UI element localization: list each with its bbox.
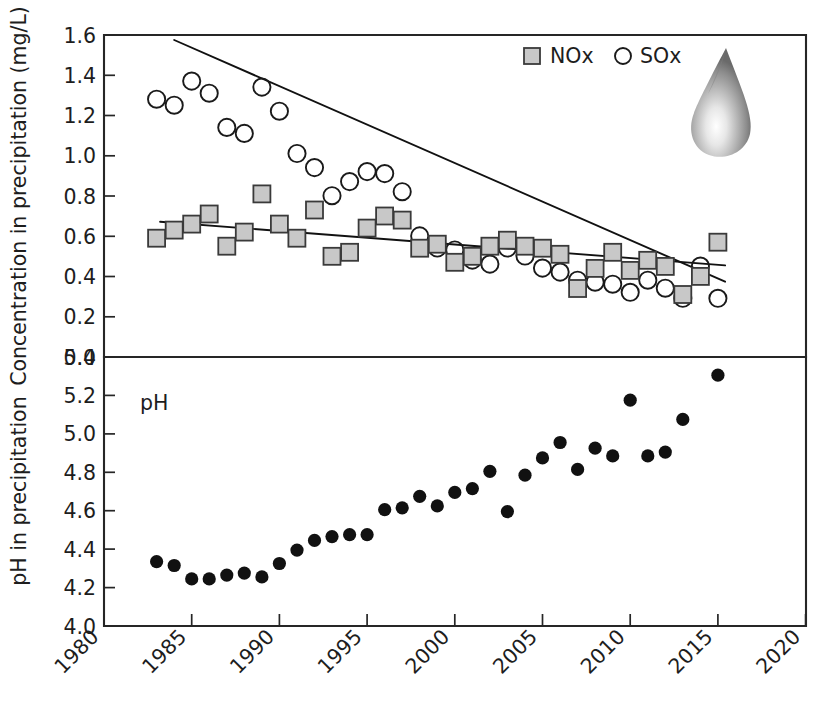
sox-point: [236, 125, 253, 142]
nox-point: [376, 208, 393, 225]
nox-point: [552, 246, 569, 263]
ph-point: [448, 486, 461, 499]
ytick-label: 1.2: [63, 104, 96, 128]
ytick-label: 0.8: [63, 185, 96, 209]
nox-point: [446, 254, 463, 271]
ytick-label: 4.2: [63, 576, 96, 600]
ph-point: [589, 442, 602, 455]
nox-point: [306, 202, 323, 219]
ph-point: [413, 490, 426, 503]
sox-point: [622, 284, 639, 301]
sox-point: [253, 79, 270, 96]
ytick-label: 5.4: [63, 346, 96, 370]
sox-point: [376, 165, 393, 182]
xtick-label: 1985: [137, 625, 191, 679]
ytick-label: 0.2: [63, 305, 96, 329]
xtick-label: 2000: [400, 625, 454, 679]
ph-panel-inline-label: pH: [140, 391, 168, 415]
sox-point: [657, 280, 674, 297]
xtick-label: 2020: [751, 625, 805, 679]
top-panel-y-axis-title: Concentration in precipitation (mg/L): [7, 6, 31, 386]
ph-point: [711, 369, 724, 382]
nox-point: [657, 258, 674, 275]
top-panel-frame: [104, 35, 806, 357]
ph-point: [641, 449, 654, 462]
ph-point: [255, 570, 268, 583]
sox-point: [481, 256, 498, 273]
bottom-panel-yticks: [104, 357, 115, 626]
nox-point: [674, 286, 691, 303]
ytick-label: 0.4: [63, 265, 96, 289]
ph-point: [150, 555, 163, 568]
ph-point: [361, 528, 374, 541]
nox-point: [569, 280, 586, 297]
ph-point: [676, 413, 689, 426]
ytick-label: 1.0: [63, 144, 96, 168]
nox-point: [709, 234, 726, 251]
sox-point: [323, 187, 340, 204]
xtick-label: 2005: [488, 625, 542, 679]
sox-point: [148, 91, 165, 108]
ph-point: [203, 572, 216, 585]
nox-point: [499, 232, 516, 249]
sox-point: [341, 173, 358, 190]
legend-nox-label: NOx: [550, 44, 594, 68]
ytick-label: 1.6: [63, 24, 96, 48]
xtick-label: 1995: [313, 625, 367, 679]
nox-point: [324, 248, 341, 265]
ph-series: [150, 369, 725, 586]
ph-point: [273, 557, 286, 570]
ph-point: [238, 567, 251, 580]
ph-point: [431, 499, 444, 512]
nox-point: [429, 236, 446, 253]
ytick-label: 5.2: [63, 384, 96, 408]
ytick-label: 5.0: [63, 422, 96, 446]
nox-point: [411, 240, 428, 257]
legend-nox-square-icon: [524, 48, 540, 64]
ph-point: [624, 394, 637, 407]
bottom-panel-y-axis-title: pH in precipitation: [7, 396, 31, 585]
sox-point: [639, 272, 656, 289]
sox-point: [359, 163, 376, 180]
ph-point: [290, 544, 303, 557]
ph-point: [571, 463, 584, 476]
sox-point: [183, 73, 200, 90]
nox-point: [517, 238, 534, 255]
sox-point: [552, 264, 569, 281]
sox-point: [218, 119, 235, 136]
ph-point: [308, 534, 321, 547]
sox-point: [534, 260, 551, 277]
nox-point: [604, 244, 621, 261]
ph-point: [501, 505, 514, 518]
x-axis-ticks: [104, 614, 806, 626]
water-droplet-icon: [691, 48, 751, 157]
nox-point: [622, 262, 639, 279]
sox-point: [166, 97, 183, 114]
ph-point: [343, 528, 356, 541]
sox-point: [604, 276, 621, 293]
ph-point: [483, 465, 496, 478]
sox-trendline: [174, 40, 725, 282]
x-axis-tick-labels: 1980 1985 1990 1995 2000 2005 2010 2015 …: [50, 625, 805, 679]
sox-point: [306, 159, 323, 176]
ytick-label: 4.4: [63, 538, 96, 562]
legend-sox-label: SOx: [640, 44, 681, 68]
nox-point: [166, 222, 183, 239]
ph-point: [518, 469, 531, 482]
ph-point: [378, 503, 391, 516]
nox-point: [639, 252, 656, 269]
nox-point: [394, 212, 411, 229]
legend-sox-circle-icon: [615, 48, 631, 64]
nox-point: [288, 230, 305, 247]
acid-rain-figure: 1.6 1.4 1.2 1.0 0.8 0.6 0.4 0.2 0.0 Conc…: [0, 0, 834, 711]
nox-point: [464, 248, 481, 265]
top-panel-ytick-labels: 1.6 1.4 1.2 1.0 0.8 0.6 0.4 0.2 0.0: [63, 24, 96, 370]
nox-point: [236, 224, 253, 241]
xtick-label: 2010: [576, 625, 630, 679]
nox-point: [253, 185, 270, 202]
nox-point: [587, 260, 604, 277]
nox-point: [183, 216, 200, 233]
nox-point: [201, 206, 218, 223]
ph-point: [606, 449, 619, 462]
ph-point: [396, 501, 409, 514]
